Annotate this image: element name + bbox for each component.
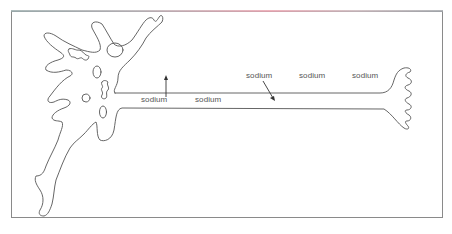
organelle-oval-1 <box>93 66 101 78</box>
neuron-outline <box>35 15 411 216</box>
label-sodium-4: sodium <box>299 71 325 80</box>
organelle-oval-2 <box>100 106 107 118</box>
label-sodium-2: sodium <box>195 95 221 104</box>
label-sodium-1: sodium <box>141 95 167 104</box>
label-sodium-3: sodium <box>246 71 272 80</box>
organelle-squiggle-1 <box>101 81 108 99</box>
organelle-circle <box>82 94 90 102</box>
organelle-squiggle-2 <box>68 48 89 60</box>
arrow-up-head <box>164 75 168 80</box>
arrow-down-right-head <box>270 96 275 101</box>
label-sodium-5: sodium <box>352 71 378 80</box>
arrow-down-right-shaft <box>263 81 273 98</box>
neuron-diagram <box>0 0 452 234</box>
